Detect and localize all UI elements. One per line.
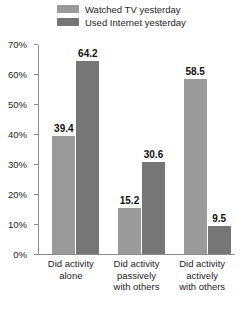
legend-swatch-watched-tv — [57, 5, 79, 13]
y-tick-label: 20% — [8, 189, 27, 200]
y-tick-60pct: 60% — [34, 74, 38, 75]
y-tick-label: 10% — [8, 219, 27, 230]
category-label-line: passively — [104, 270, 170, 282]
bar: 15.2 — [118, 208, 141, 254]
bar: 30.6 — [142, 162, 165, 254]
plot-area: 0%10%20%30%40%50%60%70% 39.464.215.230.6… — [38, 45, 235, 255]
x-axis-category-label: Did activitypassivelywith others — [104, 258, 170, 293]
chart-legend: Watched TV yesterday Used Internet yeste… — [57, 3, 247, 29]
bar-value-label: 15.2 — [120, 195, 139, 206]
category-label-line: with others — [169, 281, 235, 293]
y-tick-label: 60% — [8, 69, 27, 80]
bar-value-label: 39.4 — [54, 123, 73, 134]
bar-chart: Watched TV yesterday Used Internet yeste… — [0, 0, 250, 316]
bar-group: 15.230.6 — [105, 45, 171, 254]
y-tick-70pct: 70% — [34, 44, 38, 45]
bar-value-label: 64.2 — [78, 48, 97, 59]
legend-swatch-used-internet — [57, 18, 79, 26]
y-tick-30pct: 30% — [34, 164, 38, 165]
y-tick-20pct: 20% — [34, 194, 38, 195]
x-axis-category-labels: Did activityaloneDid activitypassivelywi… — [38, 258, 235, 314]
category-label-line: actively — [169, 270, 235, 282]
bar-groups: 39.464.215.230.658.59.5 — [39, 45, 235, 254]
bar: 9.5 — [208, 226, 231, 255]
y-tick-label: 70% — [8, 39, 27, 50]
y-tick-0pct: 0% — [34, 254, 38, 255]
category-label-line: alone — [38, 270, 104, 282]
y-tick-40pct: 40% — [34, 134, 38, 135]
category-label-line: Did activity — [169, 258, 235, 270]
x-axis-line — [38, 254, 235, 255]
bar-group: 58.59.5 — [170, 45, 236, 254]
bar-group: 39.464.2 — [39, 45, 105, 254]
legend-label-watched-tv: Watched TV yesterday — [85, 4, 181, 15]
legend-item-watched-tv: Watched TV yesterday — [57, 3, 247, 15]
bar: 64.2 — [76, 61, 99, 254]
y-tick-label: 50% — [8, 99, 27, 110]
y-tick-label: 30% — [8, 159, 27, 170]
legend-item-used-internet: Used Internet yesterday — [57, 16, 247, 28]
x-axis-category-label: Did activityalone — [38, 258, 104, 281]
y-tick-50pct: 50% — [34, 104, 38, 105]
bar: 58.5 — [184, 79, 207, 255]
y-tick-10pct: 10% — [34, 224, 38, 225]
y-tick-label: 40% — [8, 129, 27, 140]
category-label-line: with others — [104, 281, 170, 293]
category-label-line: Did activity — [104, 258, 170, 270]
category-label-line: Did activity — [38, 258, 104, 270]
bar-value-label: 9.5 — [212, 213, 226, 224]
bar-value-label: 30.6 — [144, 149, 163, 160]
bar: 39.4 — [52, 136, 75, 254]
y-tick-label: 0% — [13, 249, 27, 260]
bar-value-label: 58.5 — [185, 66, 204, 77]
legend-label-used-internet: Used Internet yesterday — [85, 17, 186, 28]
x-axis-category-label: Did activityactivelywith others — [169, 258, 235, 293]
